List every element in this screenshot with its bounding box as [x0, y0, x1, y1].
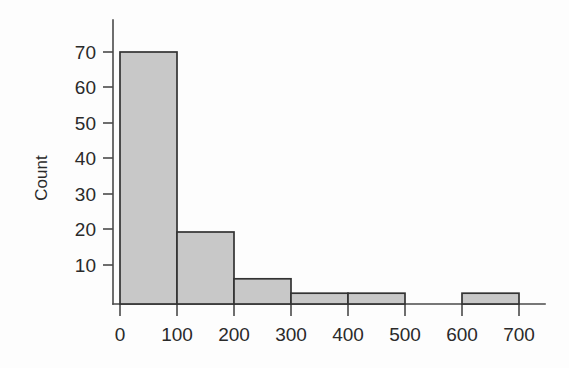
y-tick-label-20: 20 — [75, 219, 96, 240]
y-tick-label-70: 70 — [75, 42, 96, 63]
y-tick-label-40: 40 — [75, 148, 96, 169]
histogram-bar — [348, 293, 405, 304]
histogram-figure: 70 60 50 40 30 20 10 Count 0 100 200 300… — [0, 0, 569, 368]
y-tick-label-30: 30 — [75, 184, 96, 205]
histogram-plot: 70 60 50 40 30 20 10 Count 0 100 200 300… — [0, 0, 569, 368]
x-tick-label-100: 100 — [161, 324, 193, 345]
histogram-bar — [291, 293, 348, 304]
x-tick-label-200: 200 — [218, 324, 250, 345]
x-tick-label-700: 700 — [503, 324, 535, 345]
x-tick-label-600: 600 — [446, 324, 478, 345]
histogram-bars — [120, 52, 519, 304]
x-tick-label-500: 500 — [389, 324, 421, 345]
y-tick-label-10: 10 — [75, 255, 96, 276]
y-tick-label-60: 60 — [75, 77, 96, 98]
x-tick-label-300: 300 — [275, 324, 307, 345]
y-tick-label-50: 50 — [75, 113, 96, 134]
histogram-bar — [462, 293, 519, 304]
histogram-bar — [177, 232, 234, 304]
histogram-bar — [234, 279, 291, 304]
x-tick-label-400: 400 — [332, 324, 364, 345]
y-axis-title: Count — [32, 155, 51, 201]
histogram-bar — [120, 52, 177, 304]
x-tick-label-0: 0 — [115, 324, 126, 345]
